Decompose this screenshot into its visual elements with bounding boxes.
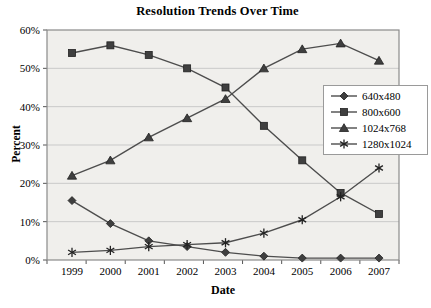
triangle-marker-icon bbox=[329, 122, 359, 134]
svg-text:0%: 0% bbox=[25, 254, 40, 266]
svg-text:2000: 2000 bbox=[99, 265, 122, 277]
svg-text:2007: 2007 bbox=[368, 265, 391, 277]
svg-text:20%: 20% bbox=[20, 177, 40, 189]
svg-text:2003: 2003 bbox=[215, 265, 238, 277]
svg-text:60%: 60% bbox=[20, 24, 40, 36]
svg-text:2004: 2004 bbox=[253, 265, 276, 277]
svg-text:50%: 50% bbox=[20, 62, 40, 74]
legend-label-640x480: 640x480 bbox=[362, 90, 401, 102]
legend: 640x480 800x600 1024x768 1280x1024 bbox=[323, 85, 428, 155]
svg-text:2005: 2005 bbox=[291, 265, 314, 277]
square-marker-icon bbox=[329, 106, 359, 118]
diamond-marker-icon bbox=[329, 90, 359, 102]
svg-text:10%: 10% bbox=[20, 216, 40, 228]
legend-item-800x600: 800x600 bbox=[329, 104, 425, 120]
resolution-trends-chart: Resolution Trends Over Time Percent 0%10… bbox=[0, 0, 431, 308]
x-axis-title: Date bbox=[47, 283, 399, 298]
svg-text:2001: 2001 bbox=[138, 265, 160, 277]
legend-label-1024x768: 1024x768 bbox=[362, 122, 406, 134]
legend-label-800x600: 800x600 bbox=[362, 106, 401, 118]
legend-item-1024x768: 1024x768 bbox=[329, 120, 425, 136]
star-marker-icon bbox=[329, 138, 359, 150]
svg-text:1999: 1999 bbox=[61, 265, 84, 277]
legend-label-1280x1024: 1280x1024 bbox=[362, 138, 412, 150]
svg-text:40%: 40% bbox=[20, 101, 40, 113]
svg-text:30%: 30% bbox=[20, 139, 40, 151]
legend-item-640x480: 640x480 bbox=[329, 88, 425, 104]
legend-item-1280x1024: 1280x1024 bbox=[329, 136, 425, 152]
svg-text:2006: 2006 bbox=[330, 265, 353, 277]
svg-text:2002: 2002 bbox=[176, 265, 198, 277]
